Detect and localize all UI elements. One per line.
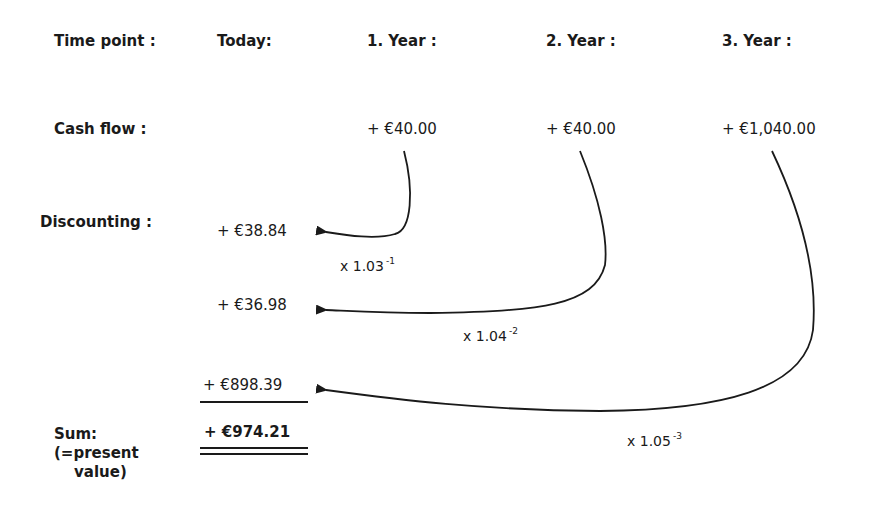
arrow-year-1 xyxy=(326,151,410,237)
arrow-year-2 xyxy=(326,151,606,313)
arrow-year-3 xyxy=(326,151,814,411)
discount-arrows xyxy=(0,0,875,515)
